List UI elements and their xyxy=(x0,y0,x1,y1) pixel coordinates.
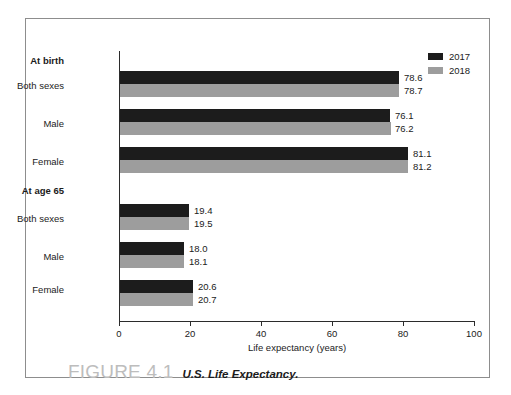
bar-age65-male-2018 xyxy=(120,255,184,268)
x-axis-title: Life expectancy (years) xyxy=(119,342,475,353)
x-tick-mark-0 xyxy=(119,321,120,326)
bar-value-age65-female-2018: 20.7 xyxy=(198,293,217,306)
cat-label-age65-both: Both sexes xyxy=(17,214,64,224)
bar-value-birth-both-2017: 78.6 xyxy=(404,71,423,84)
legend-item-2017: 2017 xyxy=(428,49,470,63)
chart-legend: 2017 2018 xyxy=(428,49,470,77)
bar-birth-female-2017 xyxy=(120,147,408,160)
bar-age65-male-2017 xyxy=(120,242,184,255)
legend-item-2018: 2018 xyxy=(428,63,470,77)
x-tick-mark-80 xyxy=(403,321,404,326)
bar-value-birth-female-2017: 81.1 xyxy=(413,147,432,160)
legend-swatch-icon-2018 xyxy=(428,67,443,74)
x-tick-mark-40 xyxy=(261,321,262,326)
bar-age65-female-2018 xyxy=(120,293,193,306)
bar-value-age65-both-2017: 19.4 xyxy=(194,204,213,217)
bar-value-age65-female-2017: 20.6 xyxy=(198,280,217,293)
cat-label-age65-female: Female xyxy=(32,285,64,295)
legend-swatch-icon-2017 xyxy=(428,53,443,60)
x-axis-line xyxy=(119,321,475,322)
cat-label-birth-both: Both sexes xyxy=(17,81,64,91)
x-tick-label-60: 60 xyxy=(327,328,338,339)
x-tick-label-20: 20 xyxy=(185,328,196,339)
bar-birth-both-2017 xyxy=(120,71,399,84)
figure-number: FIGURE 4.1 xyxy=(68,361,173,383)
cat-label-birth-male: Male xyxy=(43,119,64,129)
x-tick-label-80: 80 xyxy=(398,328,409,339)
x-tick-label-40: 40 xyxy=(256,328,267,339)
x-tick-mark-60 xyxy=(332,321,333,326)
bar-value-age65-male-2018: 18.1 xyxy=(189,255,208,268)
bar-birth-both-2018 xyxy=(120,84,399,97)
figure-caption: FIGURE 4.1 U.S. Life Expectancy. xyxy=(68,361,298,383)
bar-value-age65-male-2017: 18.0 xyxy=(189,242,208,255)
group-header-at-birth: At birth xyxy=(30,56,64,66)
bar-birth-female-2018 xyxy=(120,160,408,173)
bar-age65-both-2018 xyxy=(120,217,189,230)
figure-frame: 2017 2018 0 20 40 60 80 100 Life expecta… xyxy=(25,18,490,378)
figure-title: U.S. Life Expectancy. xyxy=(182,368,298,380)
bar-value-birth-male-2017: 76.1 xyxy=(395,109,414,122)
x-tick-mark-100 xyxy=(474,321,475,326)
figure-container: 2017 2018 0 20 40 60 80 100 Life expecta… xyxy=(0,0,511,395)
bar-birth-male-2017 xyxy=(120,109,390,122)
x-tick-mark-20 xyxy=(190,321,191,326)
bar-age65-female-2017 xyxy=(120,280,193,293)
bar-age65-both-2017 xyxy=(120,204,189,217)
bar-value-birth-both-2018: 78.7 xyxy=(404,84,423,97)
group-header-at-age-65: At age 65 xyxy=(22,186,64,196)
legend-label-2018: 2018 xyxy=(449,65,470,76)
bar-birth-male-2018 xyxy=(120,122,391,135)
legend-label-2017: 2017 xyxy=(449,51,470,62)
bar-value-birth-male-2018: 76.2 xyxy=(395,122,414,135)
bar-value-age65-both-2018: 19.5 xyxy=(194,217,213,230)
cat-label-birth-female: Female xyxy=(32,157,64,167)
bar-value-birth-female-2018: 81.2 xyxy=(413,160,432,173)
cat-label-age65-male: Male xyxy=(43,252,64,262)
x-tick-label-0: 0 xyxy=(116,328,121,339)
x-tick-label-100: 100 xyxy=(466,328,482,339)
